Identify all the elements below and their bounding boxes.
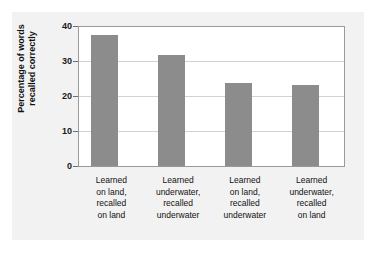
bar-learned-on-land-recalled-on-land[interactable] bbox=[91, 35, 118, 166]
bar-chart-figure: Percentage of words recalled correctly 4… bbox=[0, 0, 376, 257]
gridline-30 bbox=[79, 61, 344, 62]
x-label-3: Learned underwater, recalled on land bbox=[278, 175, 345, 231]
x-label-1: Learned underwater, recalled underwater bbox=[145, 175, 212, 231]
x-label-0: Learned on land, recalled on land bbox=[78, 175, 145, 231]
y-tick-label-40: 40 bbox=[50, 22, 72, 31]
y-tick-label-20: 20 bbox=[50, 92, 72, 101]
y-axis-title: Percentage of words recalled correctly bbox=[5, 4, 38, 134]
x-label-2: Learned on land, recalled underwater bbox=[212, 175, 279, 231]
bar-learned-on-land-recalled-underwater[interactable] bbox=[225, 83, 252, 166]
y-tick-label-30: 30 bbox=[50, 57, 72, 66]
y-axis-title-text: Percentage of words recalled correctly bbox=[16, 24, 37, 113]
y-tick-label-0: 0 bbox=[50, 162, 72, 171]
y-axis-tick-labels: 40 30 20 10 0 bbox=[48, 26, 72, 167]
y-tick-label-10: 10 bbox=[50, 127, 72, 136]
bar-learned-underwater-recalled-underwater[interactable] bbox=[158, 55, 185, 166]
bar-learned-underwater-recalled-on-land[interactable] bbox=[292, 85, 319, 166]
plot-area bbox=[78, 26, 345, 167]
x-axis-category-labels: Learned on land, recalled on land Learne… bbox=[78, 175, 345, 231]
